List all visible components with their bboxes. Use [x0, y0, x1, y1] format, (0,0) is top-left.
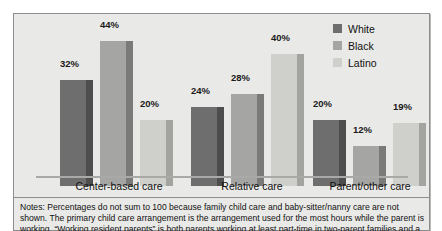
category-label-parent-other-care: Parent/other care	[311, 180, 429, 192]
legend-label-white: White	[348, 23, 375, 35]
notes-divider	[14, 197, 429, 198]
bar-side-face	[257, 94, 264, 186]
bar-white-relative-care[interactable]	[191, 107, 217, 186]
bar-value-latino-center-based-care: 20%	[140, 98, 159, 109]
bar-black-center-based-care[interactable]	[100, 41, 126, 186]
bar-value-white-center-based-care: 32%	[60, 58, 79, 69]
bar-white-center-based-care[interactable]	[60, 80, 86, 186]
bar-front-face	[231, 94, 257, 186]
axis-baseline	[36, 176, 408, 178]
bar-side-face	[297, 54, 304, 186]
legend-item-black[interactable]: Black	[333, 39, 419, 52]
legend-label-black: Black	[348, 40, 374, 52]
bar-side-face	[126, 41, 133, 186]
legend-swatch-icon	[333, 41, 342, 50]
chart-panel: 32% 44% 20% 24%	[13, 13, 430, 231]
notes-text: Notes: Percentages do not sum to 100 bec…	[20, 202, 424, 231]
bar-value-white-relative-care: 24%	[191, 85, 210, 96]
bar-side-face	[86, 80, 93, 186]
bar-side-face	[217, 107, 224, 186]
legend: White Black Latino	[333, 22, 419, 73]
bar-front-face	[100, 41, 126, 186]
bar-latino-relative-care[interactable]	[271, 54, 297, 186]
legend-item-white[interactable]: White	[333, 22, 419, 35]
bar-side-face	[419, 123, 426, 186]
legend-swatch-icon	[333, 24, 342, 33]
category-label-relative-care: Relative care	[192, 180, 312, 192]
bar-black-relative-care[interactable]	[231, 94, 257, 186]
bar-value-black-parent-other-care: 12%	[353, 124, 372, 135]
category-label-center-based-care: Center-based care	[54, 180, 184, 192]
bar-value-latino-relative-care: 40%	[271, 32, 290, 43]
bar-value-black-center-based-care: 44%	[100, 19, 119, 30]
bar-front-face	[60, 80, 86, 186]
legend-label-latino: Latino	[348, 57, 377, 69]
bar-value-white-parent-other-care: 20%	[313, 98, 332, 109]
bar-value-black-relative-care: 28%	[231, 72, 250, 83]
bar-value-latino-parent-other-care: 19%	[393, 101, 412, 112]
legend-swatch-icon	[333, 58, 342, 67]
bar-front-face	[191, 107, 217, 186]
bar-front-face	[271, 54, 297, 186]
figure-root: 32% 44% 20% 24%	[0, 0, 442, 231]
legend-item-latino[interactable]: Latino	[333, 56, 419, 69]
